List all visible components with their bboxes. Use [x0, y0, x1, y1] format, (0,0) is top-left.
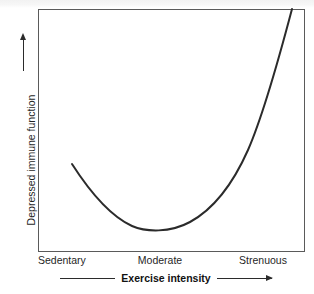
- y-axis-rule: [23, 39, 24, 71]
- y-axis-title-group: Depressed immune function: [13, 33, 35, 245]
- x-tick-label-strenuous: Strenuous: [239, 254, 287, 267]
- x-axis-rule-right: [217, 278, 272, 279]
- x-axis-title-group: Exercise intensity: [60, 270, 272, 286]
- chart-figure: Sedentary Moderate Strenuous Exercise in…: [0, 0, 314, 294]
- page-top-band: [0, 0, 314, 8]
- x-tick-label-moderate: Moderate: [138, 254, 182, 267]
- plot-area-frame: [38, 9, 305, 252]
- x-axis-rule-left: [60, 278, 115, 279]
- x-axis-title: Exercise intensity: [121, 272, 210, 284]
- x-tick-label-sedentary: Sedentary: [38, 254, 86, 267]
- y-axis-title: Depressed immune function: [24, 75, 38, 245]
- right-arrow-icon: [266, 275, 273, 281]
